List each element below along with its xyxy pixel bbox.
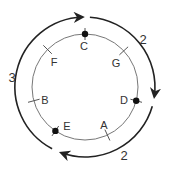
arc-arrow-1 (61, 106, 152, 157)
arc-count-label: 2 (120, 148, 127, 163)
node-label: E (63, 120, 70, 132)
node-label: C (80, 40, 88, 52)
node-d: D (120, 94, 142, 106)
marker-dot (52, 128, 58, 134)
nodes: CGDAEBF (28, 28, 142, 141)
arc-arrow-0 (90, 17, 155, 97)
arc-arrow-2 (15, 17, 83, 149)
node-label: A (100, 119, 108, 131)
node-e: E (52, 120, 71, 136)
tick-mark (105, 130, 110, 141)
arc-count-label: 2 (139, 32, 146, 47)
marker-dot (133, 98, 139, 104)
node-g: G (112, 47, 128, 69)
node-c: C (80, 28, 88, 52)
node-label: B (41, 94, 48, 106)
node-label: F (51, 56, 58, 68)
cycle-diagram: CGDAEBF 223 (0, 0, 170, 177)
arc-count-label: 3 (8, 70, 15, 85)
node-label: G (112, 57, 121, 69)
node-label: D (120, 94, 128, 106)
node-b: B (28, 94, 49, 106)
marker-dot (82, 31, 88, 37)
node-f: F (43, 45, 57, 68)
